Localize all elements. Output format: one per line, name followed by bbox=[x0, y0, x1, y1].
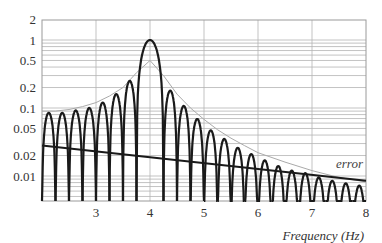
y-tick-label: 0.2 bbox=[20, 80, 36, 95]
spectrum-lobe bbox=[258, 160, 272, 201]
spectrum-lobe bbox=[353, 186, 367, 201]
x-tick-label: 3 bbox=[93, 205, 100, 220]
y-tick-label: 0.02 bbox=[13, 148, 36, 163]
y-tick-label: 1 bbox=[30, 33, 37, 48]
x-axis-tick-labels: 345678 bbox=[93, 205, 370, 220]
spectrum-lobe bbox=[110, 94, 124, 201]
x-tick-label: 7 bbox=[309, 205, 316, 220]
spectrum-lobe bbox=[164, 91, 178, 201]
error-annotation: error bbox=[336, 156, 364, 171]
frequency-spectrum-chart: 210.50.20.10.050.020.01 345678 error Fre… bbox=[0, 0, 382, 243]
y-tick-label: 2 bbox=[30, 12, 37, 27]
spectrum-lobe bbox=[56, 113, 70, 201]
x-axis-title: Frequency (Hz) bbox=[282, 228, 364, 243]
y-tick-label: 0.05 bbox=[13, 121, 36, 136]
spectrum-lobe bbox=[218, 139, 232, 201]
spectrum-lobe bbox=[191, 119, 205, 201]
spectrum-lobe bbox=[339, 183, 353, 201]
spectrum-lobe bbox=[83, 108, 97, 201]
spectrum-lobe bbox=[245, 154, 259, 201]
x-tick-label: 5 bbox=[201, 205, 208, 220]
x-tick-label: 6 bbox=[255, 205, 262, 220]
spectrum-lobe bbox=[312, 178, 326, 202]
spectrum-lobe bbox=[42, 113, 56, 201]
y-axis-tick-labels: 210.50.20.10.050.020.01 bbox=[13, 12, 36, 183]
y-tick-label: 0.1 bbox=[20, 101, 36, 116]
x-tick-label: 4 bbox=[147, 205, 154, 220]
x-tick-label: 8 bbox=[363, 205, 370, 220]
spectrum-lobe bbox=[204, 130, 218, 201]
y-tick-label: 0.01 bbox=[13, 169, 36, 184]
y-tick-label: 0.5 bbox=[20, 53, 36, 68]
